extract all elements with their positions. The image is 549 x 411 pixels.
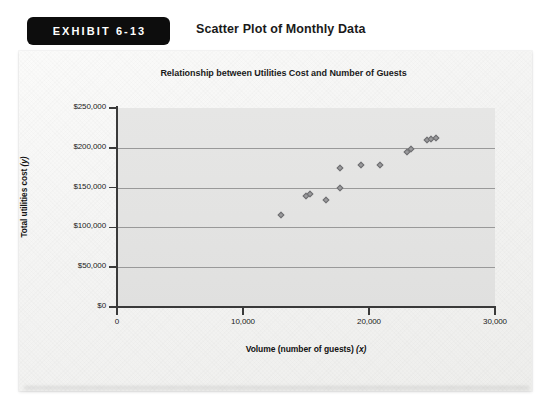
y-axis-tick-label: $250,000 [40, 102, 106, 111]
exhibit-badge: EXHIBIT 6-13 [27, 17, 170, 45]
y-axis-title: Total utilities cost (y) [19, 137, 29, 257]
y-axis-tick [109, 266, 116, 268]
y-axis-tick [109, 187, 116, 189]
x-axis-tick-label: 20,000 [339, 317, 399, 326]
axis-variable: (y) [19, 156, 29, 166]
chart-title-text: Relationship between Utilities Cost and … [160, 68, 406, 78]
x-axis-title-text: Volume (number of guests) (x) [246, 344, 367, 354]
y-axis-tick-label: $0 [40, 301, 106, 310]
y-axis-tick-label: $150,000 [40, 182, 106, 191]
x-axis-title: Volume (number of guests) (x) [117, 344, 495, 354]
chart-title: Relationship between Utilities Cost and … [0, 68, 549, 78]
x-axis-line [116, 306, 496, 308]
x-axis-tick-label: 30,000 [465, 317, 525, 326]
gridline [117, 267, 495, 268]
gridline [117, 227, 495, 228]
y-axis-tick [109, 227, 116, 229]
y-axis-tick [109, 147, 116, 149]
x-axis-tick-label: 10,000 [213, 317, 273, 326]
axis-variable: (x) [356, 344, 366, 354]
y-axis-tick [109, 306, 116, 308]
x-axis-tick [368, 308, 370, 315]
x-axis-tick-label: 0 [87, 317, 147, 326]
panel-drop-shadow [24, 386, 529, 392]
x-axis-tick [116, 308, 118, 315]
exhibit-title: Scatter Plot of Monthly Data [196, 22, 365, 36]
y-axis-title-text: Total utilities cost (y) [19, 156, 29, 237]
y-axis-tick-label: $50,000 [40, 261, 106, 270]
gridline [117, 188, 495, 189]
y-axis-tick-label: $200,000 [40, 142, 106, 151]
y-axis-tick-label: $100,000 [40, 221, 106, 230]
y-axis-tick [109, 107, 116, 109]
y-axis-line [116, 106, 118, 309]
gridline [117, 148, 495, 149]
x-axis-tick [242, 308, 244, 315]
x-axis-tick [494, 308, 496, 315]
exhibit-page: EXHIBIT 6-13 Scatter Plot of Monthly Dat… [0, 0, 549, 411]
